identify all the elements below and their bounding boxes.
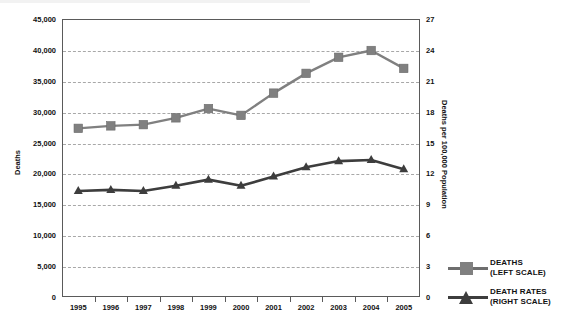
x-axis-tick-mark — [355, 297, 356, 302]
legend-label-death-rates: DEATH RATES (RIGHT SCALE) — [490, 287, 551, 307]
x-axis-tick-mark — [127, 297, 128, 302]
y-axis-left-title: Deaths — [13, 150, 22, 175]
y-axis-left-tick-label: 45,000 — [6, 15, 56, 24]
legend-item-death-rates: DEATH RATES (RIGHT SCALE) — [446, 287, 566, 307]
y-axis-right-tick-label: 24 — [426, 46, 446, 55]
x-axis-tick-label: 2005 — [384, 303, 424, 312]
legend-square-swatch — [460, 262, 473, 275]
gridline — [63, 144, 419, 145]
gridline — [63, 174, 419, 175]
gridline — [63, 205, 419, 206]
y-axis-left-tick-label: 30,000 — [6, 108, 56, 117]
gridline — [63, 236, 419, 237]
x-axis-tick-mark — [225, 297, 226, 302]
legend-label-death-rates-line1: DEATH RATES — [490, 287, 551, 297]
x-axis-tick-mark — [95, 297, 96, 302]
legend-label-deaths-line2: (LEFT SCALE) — [490, 268, 546, 278]
x-axis-tick-mark — [257, 297, 258, 302]
y-axis-right-tick-label: 0 — [426, 293, 446, 302]
legend-triangle-swatch — [459, 291, 473, 304]
x-axis-tick-mark — [160, 297, 161, 302]
y-axis-left-tick-label: 40,000 — [6, 46, 56, 55]
y-axis-right-tick-label: 27 — [426, 15, 446, 24]
gridline — [63, 113, 419, 114]
y-axis-left-tick-label: 10,000 — [6, 231, 56, 240]
y-axis-right-tick-label: 21 — [426, 77, 446, 86]
x-axis-tick-mark — [192, 297, 193, 302]
gridline — [63, 82, 419, 83]
plot-area — [62, 19, 420, 297]
top-edge-artifact — [0, 0, 310, 3]
legend-label-death-rates-line2: (RIGHT SCALE) — [490, 297, 551, 307]
legend-label-deaths: DEATHS (LEFT SCALE) — [490, 258, 546, 278]
y-axis-left-tick-label: 25,000 — [6, 139, 56, 148]
y-axis-right-tick-label: 6 — [426, 231, 446, 240]
chart-root: 05,00010,00015,00020,00025,00030,00035,0… — [0, 0, 568, 322]
x-axis-tick-mark — [290, 297, 291, 302]
legend-item-deaths: DEATHS (LEFT SCALE) — [446, 258, 566, 278]
y-axis-left-tick-label: 35,000 — [6, 77, 56, 86]
y-axis-right-tick-label: 3 — [426, 262, 446, 271]
legend-label-deaths-line1: DEATHS — [490, 258, 546, 268]
y-axis-left-tick-label: 15,000 — [6, 200, 56, 209]
gridline — [63, 51, 419, 52]
gridline — [63, 267, 419, 268]
y-axis-left-tick-label: 0 — [6, 293, 56, 302]
y-axis-right-title: Deaths per 100,000 Population — [440, 100, 449, 209]
x-axis-tick-mark — [387, 297, 388, 302]
chart-legend: DEATHS (LEFT SCALE) DEATH RATES (RIGHT S… — [446, 258, 566, 316]
square-marker-icon — [446, 259, 490, 277]
x-axis-tick-mark — [322, 297, 323, 302]
y-axis-left-tick-label: 5,000 — [6, 262, 56, 271]
triangle-marker-icon — [446, 288, 490, 306]
